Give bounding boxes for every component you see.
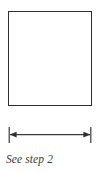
arrowhead-left-icon	[10, 132, 17, 138]
square-outline	[8, 11, 92, 106]
arrowhead-right-icon	[83, 132, 90, 138]
figure-panel: See step 2	[0, 0, 100, 172]
dimension-annotation	[0, 120, 100, 148]
figure-caption: See step 2	[6, 152, 100, 166]
dimension-arrow-icon	[0, 120, 100, 148]
